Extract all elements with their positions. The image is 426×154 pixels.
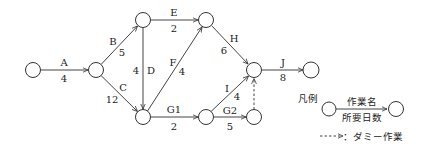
node-3 xyxy=(136,13,151,28)
activity-h-arrow xyxy=(212,26,249,65)
activity-e-days: 2 xyxy=(171,23,177,34)
activity-h-name: H xyxy=(230,33,239,44)
activity-g1-name: G1 xyxy=(167,104,181,115)
legend-activity-name: 作業名 xyxy=(347,96,377,107)
activity-b-days: 5 xyxy=(119,47,125,58)
activity-i-days: 4 xyxy=(234,91,240,102)
node-5 xyxy=(199,13,214,28)
activity-g2-name: G2 xyxy=(223,105,237,116)
activity-a-days: 4 xyxy=(61,73,67,84)
legend-end-node xyxy=(389,102,404,117)
activity-d-days: 4 xyxy=(133,65,139,76)
node-4 xyxy=(136,110,151,125)
activity-b-name: B xyxy=(109,36,116,47)
node-7 xyxy=(247,63,262,78)
activity-c-days: 12 xyxy=(106,94,119,105)
activity-g1-days: 2 xyxy=(171,121,177,132)
activity-h-days: 6 xyxy=(221,45,227,56)
activity-e-name: E xyxy=(170,7,177,18)
activity-g2-days: 5 xyxy=(227,121,233,132)
node-9 xyxy=(303,62,319,78)
activity-f-arrow xyxy=(148,27,203,111)
legend-start-node xyxy=(322,102,336,116)
activity-j-days: 8 xyxy=(280,72,286,83)
activity-f-days: 4 xyxy=(179,66,185,77)
node-2 xyxy=(89,63,104,78)
legend-title: 凡例 xyxy=(298,93,318,104)
node-8 xyxy=(247,110,262,125)
legend-dummy-label: ：ダミー作業 xyxy=(343,131,403,142)
node-1 xyxy=(26,63,41,78)
activity-b-arrow xyxy=(101,26,138,65)
arrow-diagram: A 4 B 5 C 12 4 D E 2 F 4 G1 2 H 6 I 4 xyxy=(0,0,426,154)
activity-i-name: I xyxy=(225,83,229,94)
edges: A 4 B 5 C 12 4 D E 2 F 4 G1 2 H 6 I 4 xyxy=(41,7,304,132)
activity-a-name: A xyxy=(59,57,68,68)
legend-duration: 所要日数 xyxy=(342,112,382,123)
activity-c-name: C xyxy=(119,82,127,93)
activity-f-name: F xyxy=(170,57,177,68)
node-6 xyxy=(199,110,214,125)
activity-d-name: D xyxy=(147,65,155,76)
activity-j-name: J xyxy=(280,57,285,68)
legend: 凡例 作業名 所要日数 ：ダミー作業 xyxy=(298,93,404,142)
